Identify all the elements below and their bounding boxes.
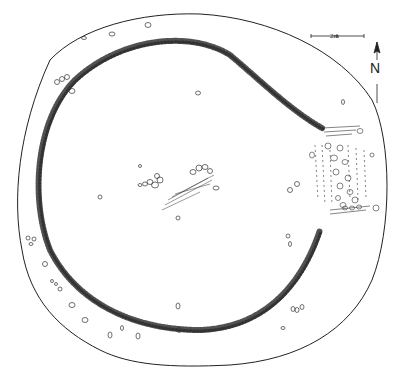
stone-ring-wall <box>39 41 323 331</box>
plan-drawing <box>0 0 396 373</box>
entrance-passage-east <box>310 126 380 214</box>
north-arrow-label: N <box>370 60 380 76</box>
scattered-stones <box>26 23 345 340</box>
central-stone-cluster <box>138 165 219 221</box>
scale-bar-label: 2m <box>330 32 339 40</box>
outer-bank-outline <box>18 14 387 366</box>
site-plan: 2m N <box>0 0 396 373</box>
